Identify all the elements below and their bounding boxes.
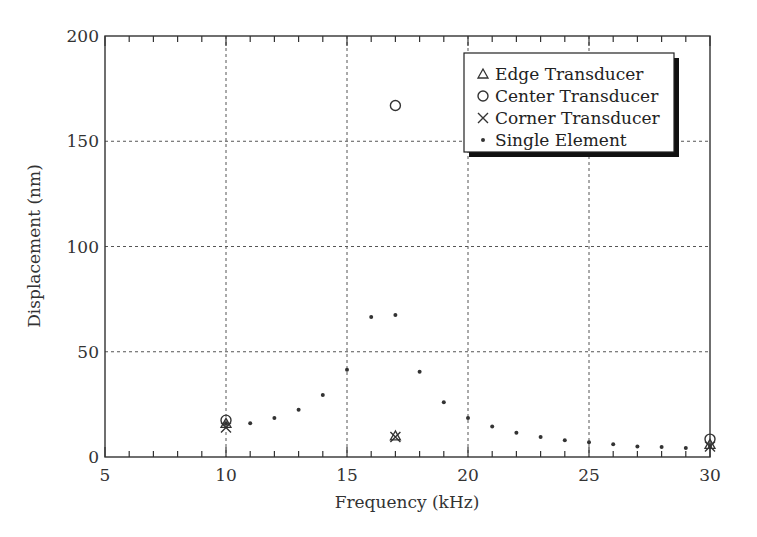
dot-marker — [369, 315, 373, 319]
dot-marker — [481, 138, 485, 142]
y-tick-label: 100 — [67, 237, 99, 257]
x-tick-labels: 51015202530 — [100, 465, 721, 485]
y-tick-labels: 050100150200 — [67, 26, 99, 467]
dot-marker — [393, 313, 397, 317]
series-single-element — [224, 313, 712, 450]
y-tick-label: 150 — [67, 131, 99, 151]
legend-label: Single Element — [495, 130, 627, 150]
dot-marker — [611, 442, 615, 446]
dot-marker — [321, 393, 325, 397]
dot-marker — [708, 444, 712, 448]
y-tick-label: 200 — [67, 26, 99, 46]
legend-label: Center Transducer — [495, 86, 659, 106]
dot-marker — [514, 431, 518, 435]
legend-item-edge-transducer: Edge Transducer — [478, 64, 644, 84]
x-axis-title: Frequency (kHz) — [335, 492, 480, 512]
x-tick-label: 20 — [457, 465, 479, 485]
y-tick-label: 0 — [88, 447, 99, 467]
displacement-vs-frequency-chart: 51015202530 050100150200 Frequency (kHz)… — [0, 0, 757, 537]
dot-marker — [272, 416, 276, 420]
dot-marker — [490, 424, 494, 428]
dot-marker — [660, 445, 664, 449]
dot-marker — [466, 416, 470, 420]
x-tick-label: 30 — [699, 465, 721, 485]
x-tick-label: 15 — [336, 465, 358, 485]
dot-marker — [224, 421, 228, 425]
x-tick-label: 5 — [100, 465, 111, 485]
x-tick-label: 25 — [578, 465, 600, 485]
y-axis-title: Displacement (nm) — [24, 164, 44, 328]
dot-marker — [684, 446, 688, 450]
legend-label: Edge Transducer — [495, 64, 644, 84]
circle-marker — [390, 100, 400, 110]
dot-marker — [539, 435, 543, 439]
legend-item-single-element: Single Element — [481, 130, 627, 150]
legend-label: Corner Transducer — [495, 108, 661, 128]
legend-item-corner-transducer: Corner Transducer — [478, 108, 661, 128]
dot-marker — [248, 421, 252, 425]
dot-marker — [442, 400, 446, 404]
dot-marker — [587, 440, 591, 444]
legend-item-center-transducer: Center Transducer — [478, 86, 659, 106]
dot-marker — [297, 408, 301, 412]
y-tick-label: 50 — [77, 342, 99, 362]
dot-marker — [418, 370, 422, 374]
triangle-marker — [390, 431, 400, 440]
x-tick-label: 10 — [215, 465, 237, 485]
legend: Edge TransducerCenter TransducerCorner T… — [464, 53, 679, 157]
dot-marker — [345, 368, 349, 372]
dot-marker — [635, 444, 639, 448]
dot-marker — [563, 438, 567, 442]
